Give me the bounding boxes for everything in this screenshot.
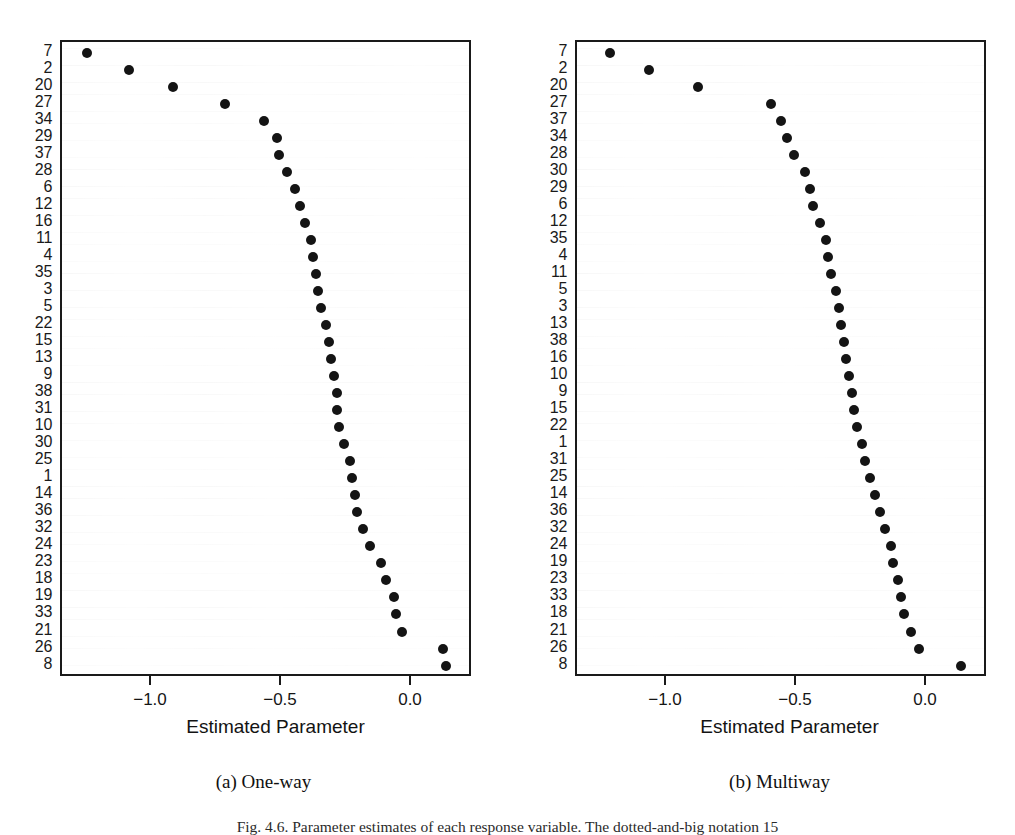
y-axis-tick-label: 33 bbox=[515, 587, 567, 603]
y-axis-tick-label: 12 bbox=[0, 196, 52, 212]
y-axis-tick-label: 18 bbox=[515, 604, 567, 620]
y-axis-tick-label: 20 bbox=[515, 77, 567, 93]
x-axis-tick-mark bbox=[279, 676, 281, 685]
y-axis-tick-label: 24 bbox=[0, 536, 52, 552]
data-point bbox=[332, 405, 342, 415]
x-axis-tick-mark bbox=[794, 676, 796, 685]
y-axis-tick-label: 2 bbox=[0, 60, 52, 76]
y-axis-tick-label: 32 bbox=[515, 519, 567, 535]
y-axis-tick-label: 9 bbox=[0, 366, 52, 382]
data-point bbox=[441, 661, 451, 671]
y-axis-tick-label: 30 bbox=[0, 434, 52, 450]
data-point bbox=[339, 439, 349, 449]
y-axis-tick-label: 10 bbox=[0, 417, 52, 433]
data-point bbox=[808, 201, 818, 211]
data-point bbox=[350, 490, 360, 500]
data-point bbox=[168, 82, 178, 92]
y-axis-tick-label: 32 bbox=[0, 519, 52, 535]
plot-area-one-way bbox=[60, 40, 471, 676]
data-point bbox=[860, 456, 870, 466]
data-point bbox=[826, 269, 836, 279]
panel-subcaption-b: (b) Multiway bbox=[526, 771, 1015, 793]
y-axis-tick-label: 33 bbox=[0, 604, 52, 620]
data-point bbox=[316, 303, 326, 313]
data-point bbox=[306, 235, 316, 245]
data-point bbox=[821, 235, 831, 245]
y-axis-tick-label: 6 bbox=[515, 196, 567, 212]
data-point bbox=[839, 337, 849, 347]
y-axis-tick-label: 5 bbox=[515, 281, 567, 297]
y-axis-tick-label: 38 bbox=[0, 383, 52, 399]
panel-subcaption-a: (a) One-way bbox=[10, 771, 517, 793]
y-axis-tick-label: 20 bbox=[0, 77, 52, 93]
y-axis-tick-label: 27 bbox=[0, 94, 52, 110]
data-point bbox=[376, 558, 386, 568]
y-axis-tick-label: 38 bbox=[515, 332, 567, 348]
y-axis-tick-label: 10 bbox=[515, 366, 567, 382]
data-point bbox=[365, 541, 375, 551]
y-axis-tick-label: 4 bbox=[515, 247, 567, 263]
data-point bbox=[956, 661, 966, 671]
data-point bbox=[800, 167, 810, 177]
y-axis-tick-label: 8 bbox=[0, 656, 52, 672]
y-axis-tick-label: 7 bbox=[0, 43, 52, 59]
y-axis-tick-label: 24 bbox=[515, 536, 567, 552]
data-point bbox=[82, 48, 92, 58]
y-axis-tick-label: 29 bbox=[515, 179, 567, 195]
y-axis-tick-label: 34 bbox=[0, 111, 52, 127]
y-axis-tick-label: 26 bbox=[515, 639, 567, 655]
data-point bbox=[397, 627, 407, 637]
scan-texture bbox=[62, 42, 469, 674]
figure-caption: Fig. 4.6. Parameter estimates of each re… bbox=[0, 818, 1015, 835]
data-point bbox=[776, 116, 786, 126]
data-point bbox=[875, 507, 885, 517]
y-axis-tick-label: 27 bbox=[515, 94, 567, 110]
y-axis-tick-label: 16 bbox=[0, 213, 52, 229]
x-axis-title: Estimated Parameter bbox=[22, 716, 529, 738]
data-point bbox=[782, 133, 792, 143]
data-point bbox=[334, 422, 344, 432]
data-point bbox=[438, 644, 448, 654]
data-point bbox=[391, 609, 401, 619]
y-axis-tick-label: 23 bbox=[0, 553, 52, 569]
y-axis-tick-label: 19 bbox=[0, 587, 52, 603]
data-point bbox=[345, 456, 355, 466]
y-axis-tick-label: 28 bbox=[515, 145, 567, 161]
y-axis-tick-label: 29 bbox=[0, 128, 52, 144]
data-point bbox=[313, 286, 323, 296]
data-point bbox=[841, 354, 851, 364]
y-axis-tick-label: 18 bbox=[0, 570, 52, 586]
data-point bbox=[300, 218, 310, 228]
y-axis-tick-label: 3 bbox=[515, 298, 567, 314]
data-point bbox=[272, 133, 282, 143]
data-point bbox=[857, 439, 867, 449]
x-axis-tick-mark bbox=[664, 676, 666, 685]
data-point bbox=[295, 201, 305, 211]
y-axis-tick-label: 21 bbox=[515, 622, 567, 638]
data-point bbox=[870, 490, 880, 500]
x-axis-tick-label: −0.5 bbox=[760, 691, 830, 708]
data-point bbox=[381, 575, 391, 585]
y-axis-tick-label: 12 bbox=[515, 213, 567, 229]
data-point bbox=[389, 592, 399, 602]
panel-multiway: 7220273734283029612354115313381610915221… bbox=[508, 0, 1015, 834]
y-axis-tick-label: 13 bbox=[0, 349, 52, 365]
y-axis-tick-label: 19 bbox=[515, 553, 567, 569]
y-axis-tick-label: 35 bbox=[0, 264, 52, 280]
y-axis-tick-label: 5 bbox=[0, 298, 52, 314]
data-point bbox=[849, 405, 859, 415]
y-axis-tick-label: 14 bbox=[515, 485, 567, 501]
x-axis-tick-label: −1.0 bbox=[115, 691, 185, 708]
x-axis-tick-label: −0.5 bbox=[245, 691, 315, 708]
data-point bbox=[852, 422, 862, 432]
data-point bbox=[347, 473, 357, 483]
data-point bbox=[311, 269, 321, 279]
y-axis-tick-label: 28 bbox=[0, 162, 52, 178]
y-axis-tick-label: 15 bbox=[0, 332, 52, 348]
data-point bbox=[834, 303, 844, 313]
data-point bbox=[321, 320, 331, 330]
y-axis-tick-label: 36 bbox=[0, 502, 52, 518]
data-point bbox=[789, 150, 799, 160]
y-axis-tick-label: 8 bbox=[515, 656, 567, 672]
data-point bbox=[766, 99, 776, 109]
